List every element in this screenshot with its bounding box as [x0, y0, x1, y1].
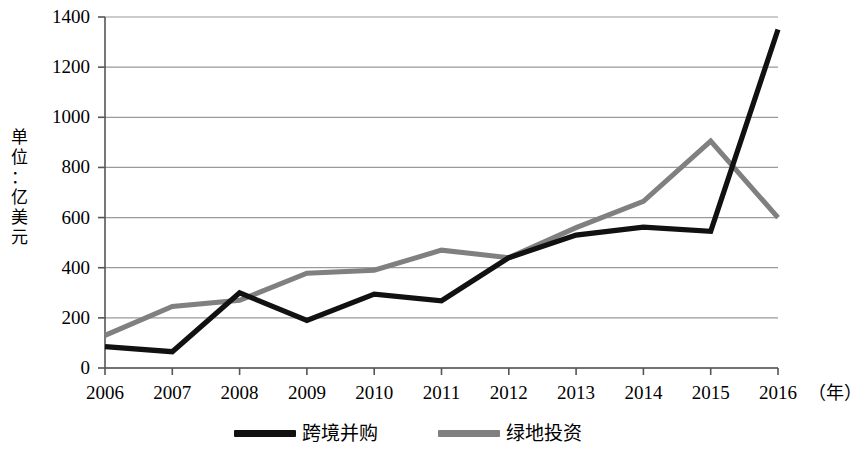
legend-label-primary: 跨境并购 — [302, 424, 378, 443]
legend-label-secondary: 绿地投资 — [506, 424, 582, 443]
x-axis-unit-label: （年） — [808, 384, 855, 403]
legend-swatch-icon — [234, 430, 296, 437]
legend-swatch-icon — [438, 430, 500, 437]
series-line-secondary — [105, 141, 778, 335]
legend-item-primary[interactable]: 跨境并购 — [234, 424, 378, 443]
chart-legend: 跨境并购 绿地投资 — [0, 424, 815, 443]
legend-item-secondary[interactable]: 绿地投资 — [438, 424, 582, 443]
